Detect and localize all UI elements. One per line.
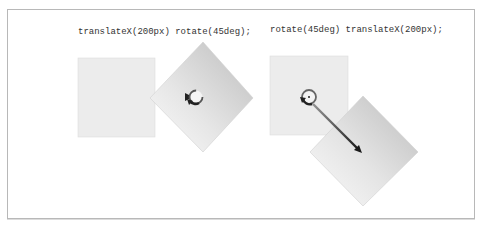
- transform-diagram: [0, 0, 481, 229]
- right-panel: [270, 56, 418, 206]
- left-panel: [78, 42, 253, 152]
